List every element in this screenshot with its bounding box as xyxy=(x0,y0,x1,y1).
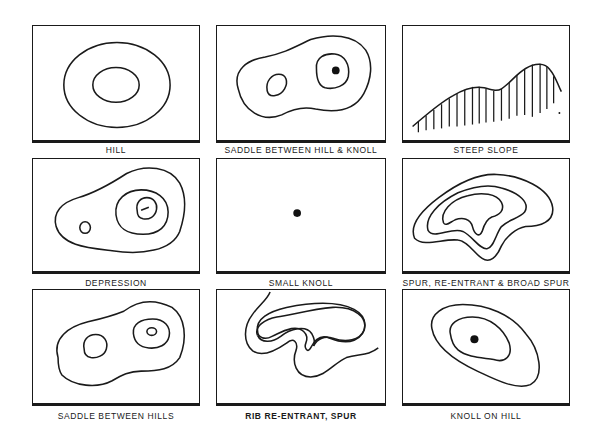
label-knoll-on-hill: KNOLL ON HILL xyxy=(402,411,570,421)
steep-slope-hachure-icon xyxy=(403,26,569,140)
label-rib-reentrant: RIB RE-ENTRANT, SPUR xyxy=(216,411,386,421)
saddle-hills-contours-icon xyxy=(33,290,199,403)
panel-rib-reentrant xyxy=(216,289,386,406)
label-saddle-hills: SADDLE BETWEEN HILLS xyxy=(32,411,200,421)
panel-steep-slope xyxy=(402,25,570,143)
hill-contours-icon xyxy=(33,26,199,140)
label-small-knoll: SMALL KNOLL xyxy=(216,278,386,288)
panel-knoll-on-hill xyxy=(402,289,570,406)
small-knoll-dot-icon xyxy=(217,159,385,271)
saddle-hill-knoll-contours-icon xyxy=(217,26,385,140)
panel-depression xyxy=(32,158,200,274)
panel-saddle-hills xyxy=(32,289,200,406)
panel-spur-reentrant xyxy=(402,158,570,274)
depression-contours-icon xyxy=(33,159,199,271)
label-saddle-hill-knoll: SADDLE BETWEEN HILL & KNOLL xyxy=(216,145,386,155)
label-depression: DEPRESSION xyxy=(32,278,200,288)
panel-small-knoll xyxy=(216,158,386,274)
knoll-on-hill-contours-icon xyxy=(403,290,569,403)
panel-hill xyxy=(32,25,200,143)
rib-reentrant-contours-icon xyxy=(217,290,385,403)
label-spur-reentrant: SPUR, RE-ENTRANT & BROAD SPUR xyxy=(402,278,570,288)
spur-reentrant-contours-icon xyxy=(403,159,569,271)
panel-saddle-hill-knoll xyxy=(216,25,386,143)
label-hill: HILL xyxy=(32,145,200,155)
label-steep-slope: STEEP SLOPE xyxy=(402,145,570,155)
